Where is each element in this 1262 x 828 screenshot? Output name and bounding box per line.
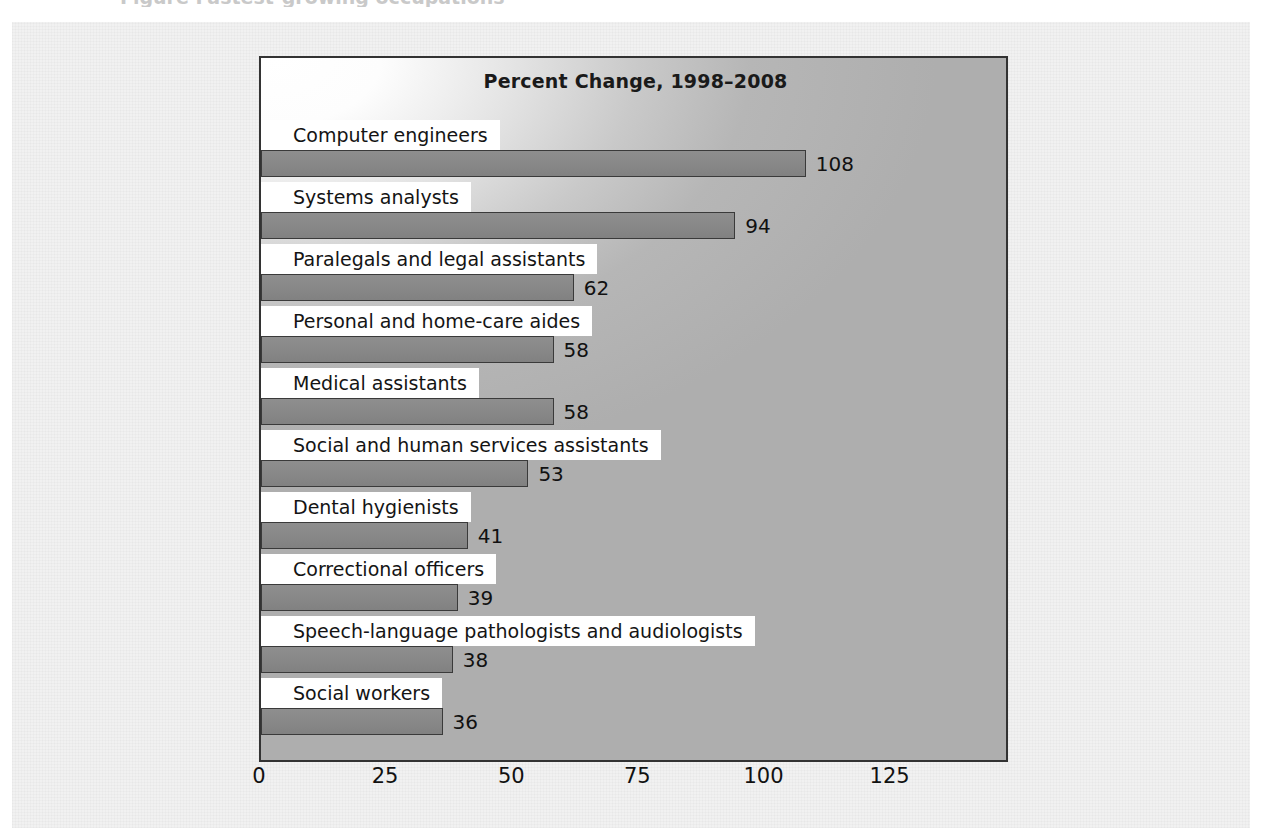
bar-value-label: 58 xyxy=(564,337,589,363)
caption-text: Figure Fastest-growing occupations xyxy=(120,0,505,7)
bar-value-label: 62 xyxy=(584,275,609,301)
category-label: Dental hygienists xyxy=(261,492,471,522)
bar-row: Personal and home-care aides58 xyxy=(261,306,1008,368)
bar-row: Systems analysts94 xyxy=(261,182,1008,244)
category-label: Correctional officers xyxy=(261,554,496,584)
category-label: Speech-language pathologists and audiolo… xyxy=(261,616,755,646)
bar-value-label: 94 xyxy=(745,213,770,239)
bar-row: Social and human services assistants53 xyxy=(261,430,1008,492)
bar-chart: Percent Change, 1998–2008 Computer engin… xyxy=(259,56,1008,762)
bar-row: Computer engineers108 xyxy=(261,120,1008,182)
bar-row: Medical assistants58 xyxy=(261,368,1008,430)
bar xyxy=(261,150,806,177)
x-tick-label: 0 xyxy=(252,764,265,788)
bar xyxy=(261,646,453,673)
category-label: Paralegals and legal assistants xyxy=(261,244,597,274)
category-label: Personal and home-care aides xyxy=(261,306,592,336)
bar-value-label: 108 xyxy=(816,151,854,177)
scanned-page: Figure Fastest-growing occupations Perce… xyxy=(0,0,1262,828)
category-label: Social and human services assistants xyxy=(261,430,661,460)
x-axis: 0255075100125 xyxy=(259,764,1019,810)
cropped-caption-sliver: Figure Fastest-growing occupations xyxy=(120,0,680,7)
x-tick-label: 50 xyxy=(498,764,525,788)
bar-value-label: 36 xyxy=(453,709,478,735)
bar-row: Dental hygienists41 xyxy=(261,492,1008,554)
x-tick-label: 75 xyxy=(624,764,651,788)
bar xyxy=(261,212,735,239)
bar-value-label: 39 xyxy=(468,585,493,611)
category-label: Systems analysts xyxy=(261,182,471,212)
bar-value-label: 58 xyxy=(564,399,589,425)
bar-value-label: 38 xyxy=(463,647,488,673)
bar-row: Speech-language pathologists and audiolo… xyxy=(261,616,1008,678)
x-tick-label: 25 xyxy=(372,764,399,788)
bar xyxy=(261,460,528,487)
bar xyxy=(261,708,443,735)
bar-value-label: 41 xyxy=(478,523,503,549)
x-tick-label: 100 xyxy=(743,764,783,788)
category-label: Medical assistants xyxy=(261,368,479,398)
bar xyxy=(261,584,458,611)
category-label: Social workers xyxy=(261,678,442,708)
bar xyxy=(261,336,554,363)
bar-value-label: 53 xyxy=(538,461,563,487)
bar-row: Paralegals and legal assistants62 xyxy=(261,244,1008,306)
chart-title: Percent Change, 1998–2008 xyxy=(261,70,1008,92)
bar xyxy=(261,274,574,301)
bar-row: Social workers36 xyxy=(261,678,1008,740)
bar xyxy=(261,522,468,549)
bar-rows: Computer engineers108Systems analysts94P… xyxy=(261,120,1008,740)
category-label: Computer engineers xyxy=(261,120,500,150)
bar-row: Correctional officers39 xyxy=(261,554,1008,616)
x-tick-label: 125 xyxy=(870,764,910,788)
bar xyxy=(261,398,554,425)
